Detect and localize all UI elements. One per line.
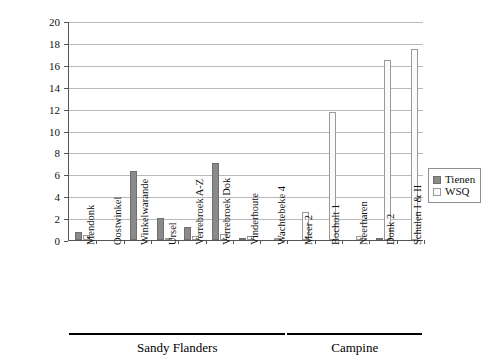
legend-swatch-icon-wsq: [433, 188, 441, 196]
x-label-vinderhoute: Vinderhoute: [250, 193, 261, 245]
bar-group: [369, 22, 396, 240]
x-label-meer-2: Meer 2: [304, 215, 315, 245]
bar-tienen-11: [376, 238, 383, 240]
x-tick-mark: [315, 240, 316, 244]
y-tick-label-2: 2: [36, 214, 60, 225]
x-label-wachtebeke-4: Wachtebeke 4: [277, 186, 288, 245]
legend-item-tienen: Tienen: [433, 174, 475, 185]
bar-tienen-4: [184, 227, 191, 240]
chart-figure: 02468101214161820 MendonkOostwinkelWinke…: [0, 0, 499, 360]
x-tick-mark: [369, 240, 370, 244]
x-label-ursel: Ursel: [168, 222, 179, 245]
x-tick-mark: [342, 240, 343, 244]
x-tick-mark: [397, 240, 398, 244]
group-label-campine: Campine: [287, 341, 422, 354]
y-tick-label-10: 10: [36, 127, 60, 138]
x-tick-mark: [151, 240, 152, 244]
x-label-verrebroek-a-z: Verrebroek A-Z: [195, 179, 206, 245]
y-tick-label-12: 12: [36, 105, 60, 116]
x-tick-mark: [124, 240, 125, 244]
bar-tienen-3: [157, 218, 164, 240]
bar-tienen-2: [130, 171, 137, 240]
x-label-winkelwarande: Winkelwarande: [140, 179, 151, 245]
bar-group: [151, 22, 178, 240]
x-tick-mark: [424, 240, 425, 244]
x-label-schulen-i-ii: Schulen I & II: [413, 185, 424, 245]
legend-swatch-icon-tienen: [433, 176, 441, 184]
x-label-bocholt-1: Bocholt 1: [331, 204, 342, 245]
group-label-sandy-flanders: Sandy Flanders: [69, 341, 285, 354]
bar-group: [287, 22, 314, 240]
x-tick-mark: [206, 240, 207, 244]
legend-label-wsq: WSQ: [445, 186, 469, 197]
x-label-neerharen: Neerharen: [359, 201, 370, 245]
x-label-oostwinkel: Oostwinkel: [113, 197, 124, 245]
x-tick-mark: [287, 240, 288, 244]
bar-tienen-6: [239, 238, 246, 240]
x-label-donk-2: Donk 2: [386, 214, 397, 245]
y-tick-label-18: 18: [36, 39, 60, 50]
y-tick-label-8: 8: [36, 148, 60, 159]
y-tick-mark-0: [64, 241, 68, 242]
x-label-verrebroek-dok: Verrebroek Dok: [222, 178, 233, 245]
y-tick-label-20: 20: [36, 17, 60, 28]
x-tick-mark: [233, 240, 234, 244]
group-rule: [287, 333, 422, 335]
x-label-mendonk: Mendonk: [86, 205, 97, 245]
y-tick-label-16: 16: [36, 61, 60, 72]
legend-item-wsq: WSQ: [433, 186, 475, 197]
y-tick-label-4: 4: [36, 192, 60, 203]
bar-tienen-5: [212, 163, 219, 240]
y-tick-label-14: 14: [36, 83, 60, 94]
legend-label-tienen: Tienen: [445, 174, 475, 185]
group-rule: [69, 333, 285, 335]
bar-tienen-0: [75, 232, 82, 240]
y-tick-label-0: 0: [36, 236, 60, 247]
y-tick-label-6: 6: [36, 170, 60, 181]
legend: Tienen WSQ: [428, 168, 481, 203]
